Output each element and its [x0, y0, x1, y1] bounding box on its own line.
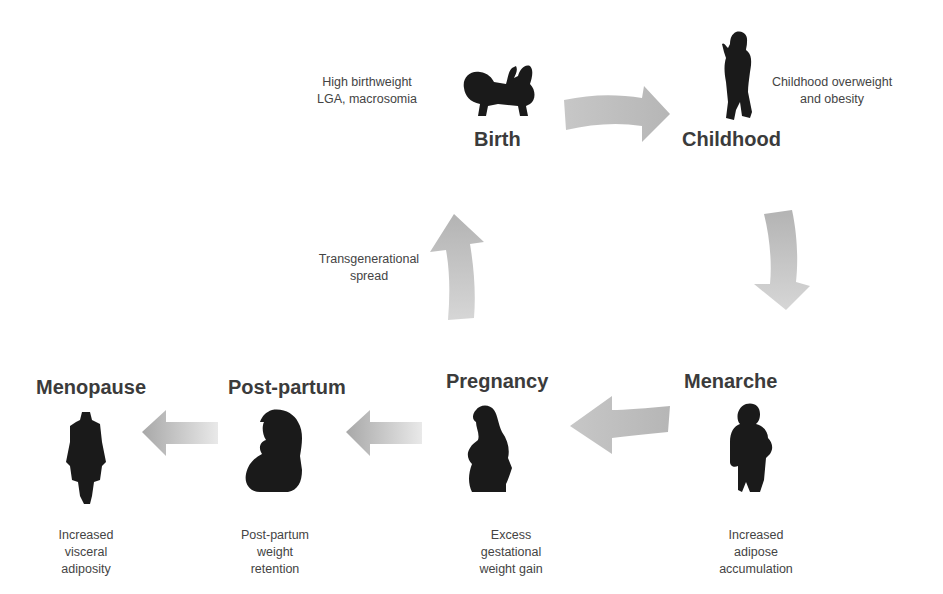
arrow-birth-to-childhood [562, 86, 672, 146]
transgenerational-note: Transgenerational spread [300, 251, 438, 285]
stage-title-childhood: Childhood [682, 128, 781, 151]
infant-silhouette-icon [458, 60, 538, 120]
pregnancy-note: Excess gestational weight gain [456, 527, 566, 578]
menopause-note: Increased visceral adiposity [36, 527, 136, 578]
arrow-pregnancy-to-postpartum [346, 410, 424, 458]
stage-title-menarche: Menarche [684, 370, 777, 393]
mother-holding-baby-silhouette-icon [244, 408, 308, 494]
postpartum-note: Post-partum weight retention [220, 527, 330, 578]
arrow-postpartum-to-menopause [142, 410, 220, 458]
arrow-menarche-to-pregnancy [568, 396, 672, 458]
woman-coat-silhouette-icon [64, 410, 108, 506]
child-silhouette-icon [720, 30, 760, 122]
arrow-pregnancy-to-birth [428, 212, 492, 322]
birth-note: High birthweight LGA, macrosomia [302, 74, 432, 108]
menarche-note: Increased adipose accumulation [696, 527, 816, 578]
pregnant-woman-silhouette-icon [466, 404, 524, 494]
stage-title-postpartum: Post-partum [228, 376, 346, 399]
stage-title-pregnancy: Pregnancy [446, 370, 548, 393]
childhood-note: Childhood overweight and obesity [764, 74, 900, 108]
stage-title-birth: Birth [474, 128, 521, 151]
arrow-childhood-to-menarche [750, 208, 810, 312]
adolescent-girl-silhouette-icon [728, 402, 778, 494]
stage-title-menopause: Menopause [36, 376, 146, 399]
